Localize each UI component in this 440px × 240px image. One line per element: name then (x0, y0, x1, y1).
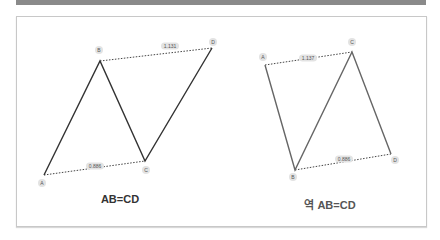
ratio-line (100, 48, 212, 61)
point-label-d: D (393, 157, 397, 163)
ratio-label: 1.137 (302, 55, 315, 61)
ratio-label: 0.886 (338, 156, 351, 162)
ratio-label: 0.886 (89, 163, 102, 169)
pattern-diagrams: ABCD1.1310.886ABCD1.1370.886 (0, 0, 440, 240)
pattern-line (44, 48, 212, 175)
point-label-c: C (144, 167, 148, 173)
pattern-line (265, 52, 391, 170)
ratio-label: 1.131 (164, 43, 177, 49)
caption-reverse-ab-cd: 역 AB=CD (290, 196, 370, 212)
caption-ab-cd: AB=CD (90, 193, 150, 205)
point-label-d: D (211, 39, 215, 45)
point-label-c: C (350, 39, 354, 45)
